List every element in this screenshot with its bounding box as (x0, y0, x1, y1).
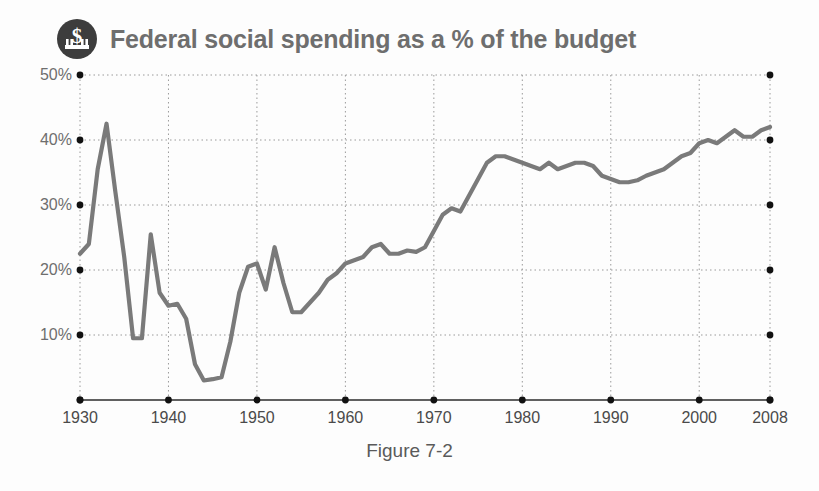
figure-container: $ Federal social spending as a % of the … (0, 0, 819, 491)
figure-caption: Figure 7-2 (0, 440, 819, 462)
y-axis-tick-label: 40% (24, 132, 72, 148)
x-axis-tick-label: 1930 (50, 410, 110, 426)
x-axis-tick-label: 1990 (581, 410, 641, 426)
gridlines (80, 75, 770, 400)
x-axis-tick-label: 1960 (315, 410, 375, 426)
chart-plot-area: 10%20%30%40%50%1930194019501960197019801… (0, 0, 819, 440)
x-axis-tick-label: 2000 (669, 410, 729, 426)
x-axis-tick-label: 1940 (138, 410, 198, 426)
y-axis-tick-label: 50% (24, 67, 72, 83)
y-axis-tick-label: 10% (24, 327, 72, 343)
y-axis-tick-label: 30% (24, 197, 72, 213)
x-axis-tick-label: 1970 (404, 410, 464, 426)
x-axis-tick-label: 1950 (227, 410, 287, 426)
y-axis-tick-label: 20% (24, 262, 72, 278)
data-series (80, 124, 770, 381)
axis-markers (77, 72, 774, 404)
x-axis-tick-label: 2008 (740, 410, 800, 426)
x-axis-tick-label: 1980 (492, 410, 552, 426)
chart-svg (0, 0, 819, 440)
